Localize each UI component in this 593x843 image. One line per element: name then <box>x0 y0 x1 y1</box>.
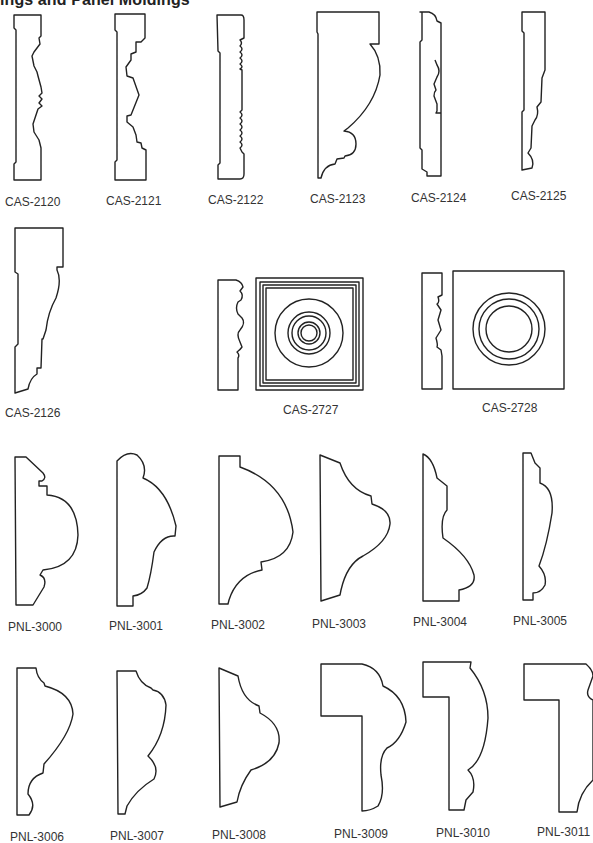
profile-pnl-3000 <box>15 457 78 605</box>
label-cas-2125: CAS-2125 <box>511 189 566 203</box>
label-cas-2120: CAS-2120 <box>5 195 60 209</box>
profile-pnl-3003 <box>320 455 390 601</box>
profile-cas-2727 <box>218 278 363 390</box>
label-cas-2121: CAS-2121 <box>106 194 161 208</box>
label-cas-2124: CAS-2124 <box>411 191 466 205</box>
label-pnl-3011: PNL-3011 <box>537 825 590 839</box>
label-pnl-3000: PNL-3000 <box>8 620 62 634</box>
label-pnl-3009: PNL-3009 <box>334 827 388 841</box>
profile-pnl-3009 <box>321 664 406 811</box>
label-cas-2727: CAS-2727 <box>283 403 338 417</box>
label-pnl-3001: PNL-3001 <box>109 619 163 633</box>
label-pnl-3003: PNL-3003 <box>312 617 366 631</box>
profile-pnl-3004 <box>423 454 474 601</box>
label-cas-2728: CAS-2728 <box>482 401 537 415</box>
profile-pnl-3008 <box>219 668 279 807</box>
profile-cas-2728 <box>422 271 564 389</box>
label-cas-2123: CAS-2123 <box>310 192 365 206</box>
profile-cas-2126 <box>15 228 63 393</box>
profile-pnl-3002 <box>219 456 293 604</box>
profile-pnl-3010 <box>423 662 488 810</box>
profile-cas-2124 <box>420 12 441 176</box>
label-pnl-3002: PNL-3002 <box>211 618 265 632</box>
profile-pnl-3011 <box>524 664 593 812</box>
profile-pnl-3005 <box>523 453 552 600</box>
label-pnl-3005: PNL-3005 <box>513 614 567 628</box>
profile-cas-2123 <box>317 12 380 178</box>
molding-profiles-drawing <box>0 0 593 843</box>
profile-cas-2120 <box>14 15 42 180</box>
profile-cas-2122 <box>217 15 244 179</box>
profile-pnl-3007 <box>117 671 166 814</box>
label-pnl-3004: PNL-3004 <box>413 615 467 629</box>
profile-pnl-3006 <box>17 668 73 815</box>
label-pnl-3008: PNL-3008 <box>212 828 266 842</box>
profile-pnl-3001 <box>117 453 176 606</box>
label-pnl-3007: PNL-3007 <box>110 829 164 843</box>
label-pnl-3010: PNL-3010 <box>436 826 490 840</box>
profile-cas-2125 <box>522 12 545 170</box>
label-cas-2126: CAS-2126 <box>5 406 60 420</box>
label-pnl-3006: PNL-3006 <box>10 830 64 843</box>
profile-cas-2121 <box>115 14 146 180</box>
label-cas-2122: CAS-2122 <box>208 193 263 207</box>
